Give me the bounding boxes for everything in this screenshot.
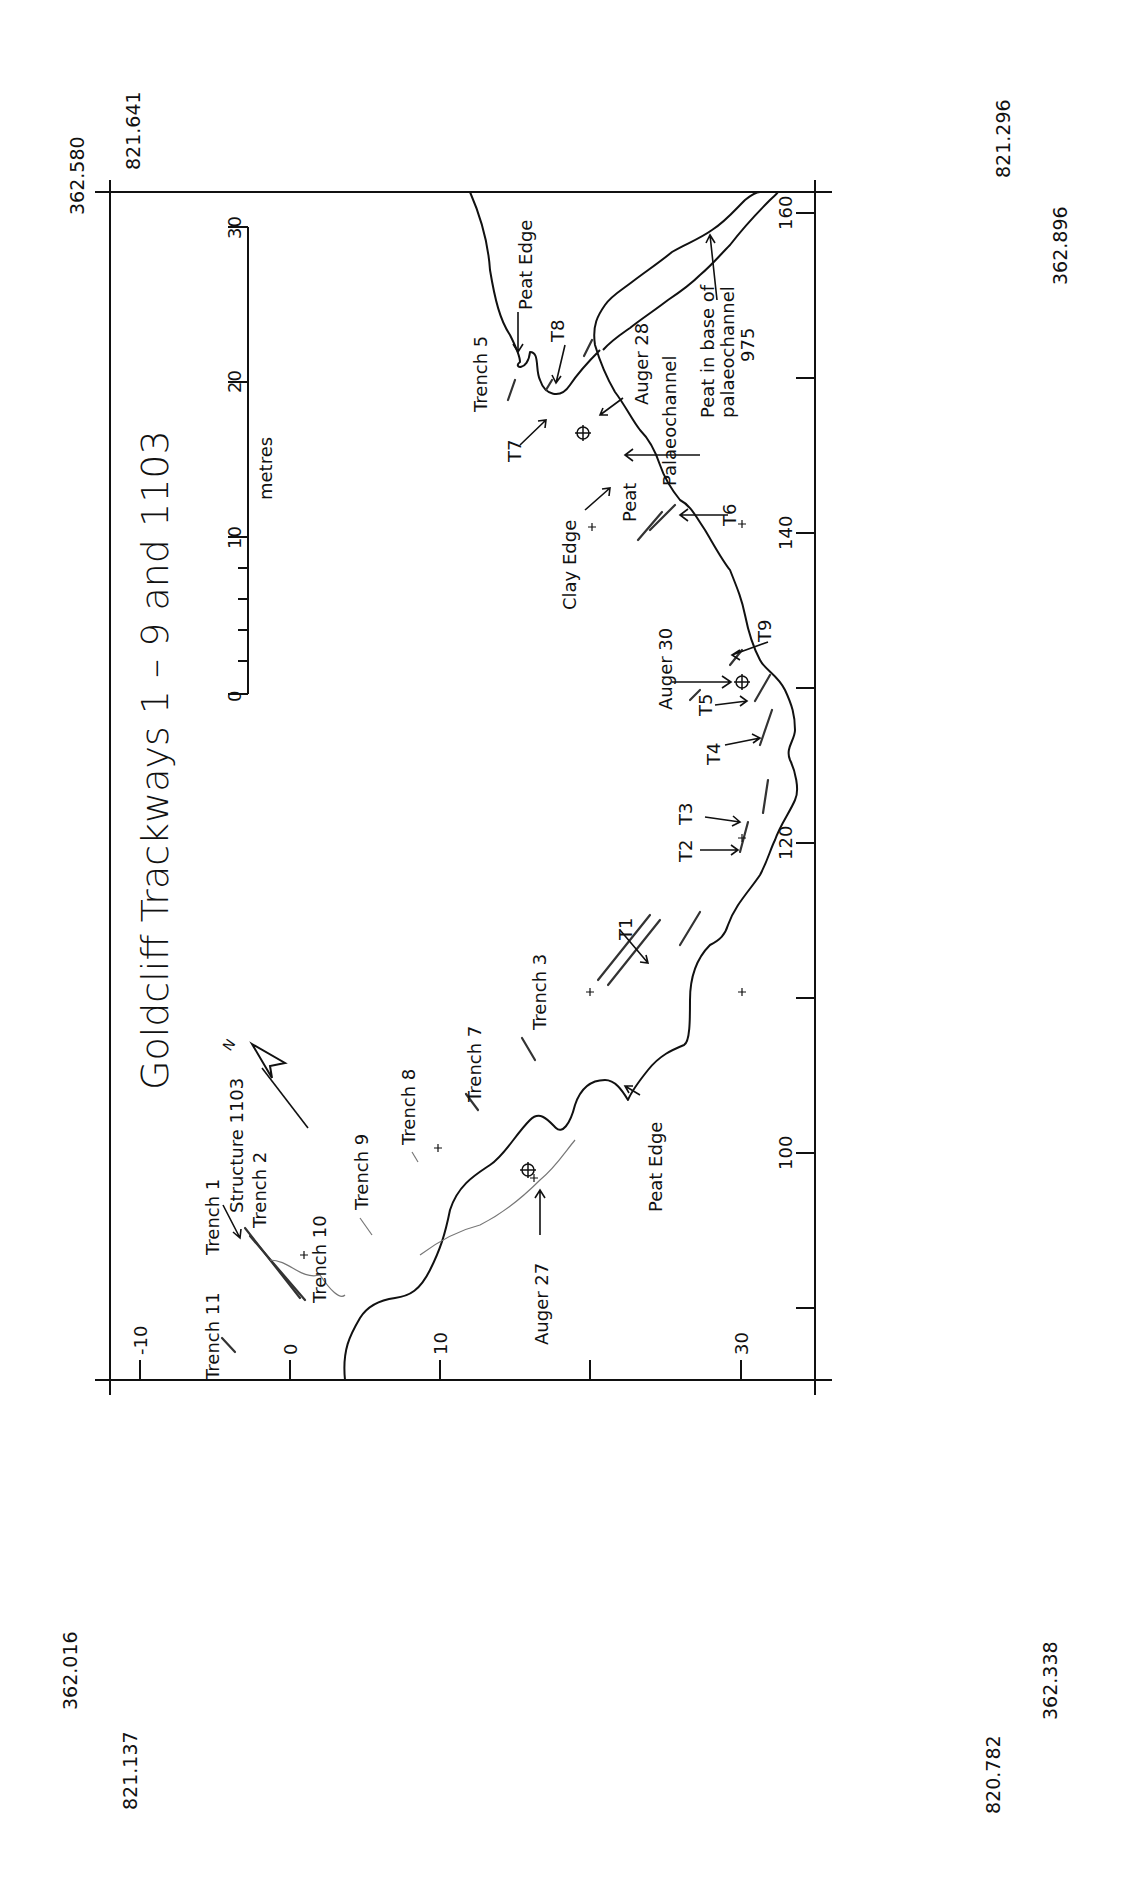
label-trench-1: Trench 1 <box>202 1179 223 1256</box>
label-clay-edge: Clay Edge <box>559 520 580 610</box>
scale-label-10: 10 <box>224 526 245 549</box>
label-t9: T9 <box>754 620 775 643</box>
site-plan-map: 362.580 821.641 821.296 362.896 362.016 … <box>0 0 1124 1894</box>
north-label: N <box>219 1036 238 1054</box>
survey-cross <box>738 988 746 996</box>
coord-top-left-easting: 362.580 <box>66 136 88 215</box>
label-auger-28: Auger 28 <box>631 323 652 405</box>
label-trench-11: Trench 11 <box>202 1292 223 1381</box>
label-peat: Peat <box>619 483 640 522</box>
t3-feature <box>763 780 768 813</box>
survey-cross <box>588 523 596 531</box>
trench-3-feature <box>522 1038 535 1060</box>
auger-27-arrow <box>535 1190 545 1235</box>
t8-arrow <box>552 345 565 383</box>
label-t5: T5 <box>695 694 716 717</box>
label-peat-edge-bottom: Peat Edge <box>645 1122 666 1212</box>
peat-edge-bottom-arrow <box>625 1086 640 1095</box>
label-trench-5: Trench 5 <box>470 336 491 413</box>
label-t8: T8 <box>547 320 568 343</box>
t1-feature <box>598 912 700 985</box>
label-auger-27: Auger 27 <box>531 1263 552 1345</box>
coord-bottom-right-northing: 820.782 <box>982 1735 1004 1814</box>
trench-5-feature <box>508 380 515 400</box>
t6-feature <box>638 505 675 540</box>
label-auger-30: Auger 30 <box>655 628 676 710</box>
scale-bar: 0 10 20 30 metres <box>224 216 276 702</box>
grid-tick-label: 140 <box>775 516 796 550</box>
label-t3: T3 <box>675 803 696 826</box>
map-title: Goldcliff Trackways 1 – 9 and 1103 <box>133 430 177 1090</box>
label-t7: T7 <box>504 440 525 463</box>
grid-axis-bottom: -10 0 10 30 <box>130 1326 752 1380</box>
north-arrow-shaft <box>262 1068 308 1128</box>
t4-feature <box>760 710 772 745</box>
palaeochannel-peat-feature <box>584 340 592 356</box>
scale-label-30: 30 <box>224 216 245 239</box>
scale-label-0: 0 <box>224 691 245 702</box>
peat-edge-top-arrow <box>513 312 523 352</box>
coord-bottom-left-easting: 362.016 <box>59 1631 81 1710</box>
label-trench-2: Trench 2 <box>249 1152 270 1229</box>
grid-tick-label: -10 <box>130 1326 151 1355</box>
coord-top-left-northing: 821.641 <box>122 91 144 170</box>
coord-top-right-northing: 821.296 <box>992 99 1014 178</box>
label-t2: T2 <box>675 840 696 863</box>
label-peat-base-line-2: palaeochannel <box>717 286 738 418</box>
label-structure-1103: Structure 1103 <box>226 1078 247 1213</box>
trench-8-feature <box>412 1152 418 1162</box>
grid-tick-label: 160 <box>775 196 796 230</box>
label-trench-9: Trench 9 <box>351 1134 372 1211</box>
survey-cross <box>434 1144 442 1152</box>
t2-feature <box>740 822 748 852</box>
label-trench-7: Trench 7 <box>464 1026 485 1103</box>
label-peat-base-line-1: Peat in base of <box>697 284 718 418</box>
trench-2-feature <box>250 1236 305 1300</box>
grid-tick-label: 0 <box>280 1344 301 1355</box>
survey-cross <box>300 1251 308 1259</box>
auger-30-marker <box>734 674 750 690</box>
survey-cross <box>586 988 594 996</box>
label-peat-edge-top: Peat Edge <box>515 220 536 310</box>
north-arrow-head <box>252 1044 285 1078</box>
grid-tick-label: 30 <box>731 1332 752 1355</box>
label-t1: T1 <box>615 918 636 941</box>
scale-unit-label: metres <box>255 437 276 500</box>
t5-arrow <box>715 696 747 706</box>
trench-10-feature <box>270 1260 345 1296</box>
auger-30-arrow <box>672 676 731 688</box>
t7-feature <box>546 380 552 390</box>
label-palaeochannel: Palaeochannel <box>659 356 680 486</box>
trench-11-feature <box>222 1338 235 1352</box>
map-labels: Trench 1 Structure 1103 Trench 2 Trench … <box>202 220 775 1381</box>
grid-tick-label: 10 <box>430 1332 451 1355</box>
label-peat-base-line-3: 975 <box>737 328 758 362</box>
auger-28-marker <box>575 425 591 441</box>
clay-edge-arrow <box>585 488 610 510</box>
label-trench-3: Trench 3 <box>529 954 550 1031</box>
label-t4: T4 <box>703 743 724 766</box>
t2-arrow <box>700 845 738 855</box>
label-trench-10: Trench 10 <box>309 1215 330 1304</box>
t5-feature <box>755 675 770 701</box>
t3-arrow <box>705 816 740 826</box>
label-trench-8: Trench 8 <box>398 1069 419 1146</box>
label-t6: T6 <box>719 504 740 527</box>
annotation-arrows <box>223 235 768 1238</box>
auger-28-arrow <box>600 398 623 415</box>
coord-top-right-easting: 362.896 <box>1049 206 1071 285</box>
coord-bottom-left-northing: 821.137 <box>119 1731 141 1810</box>
trench-9-feature <box>360 1218 372 1235</box>
scale-label-20: 20 <box>224 370 245 393</box>
t4-arrow <box>725 734 760 745</box>
coord-bottom-right-easting: 362.338 <box>1039 1641 1061 1720</box>
grid-tick-label: 100 <box>775 1136 796 1170</box>
t9-feature <box>690 650 742 700</box>
grid-axis-right: 100 120 140 160 <box>775 196 815 1308</box>
